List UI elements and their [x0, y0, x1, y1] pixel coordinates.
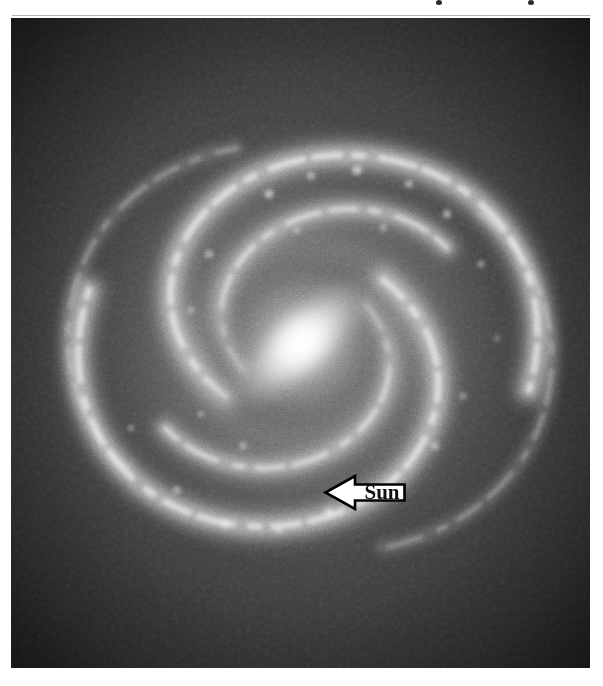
figure-page: Sun — [0, 0, 603, 686]
figure-top-rule — [12, 15, 590, 16]
sun-annotation: Sun — [324, 471, 406, 514]
top-edge-artifact-right — [528, 0, 534, 5]
sun-label: Sun — [361, 480, 403, 505]
top-edge-artifact-left — [436, 0, 442, 5]
galaxy-image: Sun — [11, 18, 590, 668]
